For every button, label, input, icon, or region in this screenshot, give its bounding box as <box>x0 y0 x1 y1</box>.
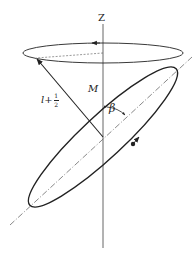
projection-label-m: M <box>88 84 98 94</box>
vector-label-fraction: 1 2 <box>54 93 59 108</box>
fraction-numerator: 1 <box>54 93 58 99</box>
vector-label: l+ 1 2 <box>41 93 59 108</box>
vector-label-base: l+ <box>41 95 53 105</box>
z-axis-label: Z <box>98 13 105 23</box>
orbit-direction-arrow <box>133 137 139 144</box>
fraction-denominator: 2 <box>54 102 58 108</box>
tilted-axis <box>10 57 192 225</box>
cone-radius-dashed <box>36 53 103 58</box>
angular-momentum-diagram <box>0 0 196 254</box>
angle-label-beta: β <box>109 103 115 114</box>
